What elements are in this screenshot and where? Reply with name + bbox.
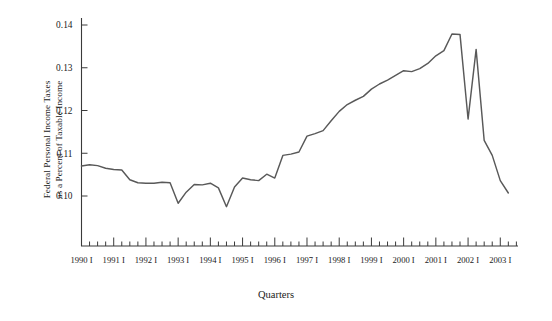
x-tick-label: 1995 I — [231, 255, 253, 265]
x-axis-label: Quarters — [0, 289, 552, 300]
x-tick-label: 2003 I — [489, 255, 511, 265]
line-chart-plot: 0.100.110.120.130.14 1990 I1991 I1992 I1… — [0, 0, 552, 321]
x-tick-label: 1996 I — [264, 255, 286, 265]
y-axis-label-line2: as a Percent of Taxable Income — [53, 35, 65, 245]
y-axis-label-line1: Federal Personal Income Taxes — [42, 35, 54, 245]
data-series-group — [82, 34, 509, 207]
x-tick-label: 1999 I — [360, 255, 382, 265]
x-tick-label: 2002 I — [457, 255, 479, 265]
x-tick-label: 1993 I — [167, 255, 189, 265]
axes-group — [82, 18, 519, 246]
x-tick-label: 1992 I — [135, 255, 157, 265]
y-axis-label: Federal Personal Income Taxes as a Perce… — [42, 35, 65, 245]
x-tick-label: 2001 I — [425, 255, 447, 265]
x-tick-label: 1991 I — [103, 255, 125, 265]
x-tick-label: 1990 I — [70, 255, 92, 265]
chart-container: 0.100.110.120.130.14 1990 I1991 I1992 I1… — [0, 0, 552, 321]
x-tick-label: 1994 I — [199, 255, 221, 265]
x-tick-label: 1997 I — [296, 255, 318, 265]
x-tick-label: 1998 I — [328, 255, 350, 265]
x-tick-label: 2000 I — [393, 255, 415, 265]
x-axis-ticks: 1990 I1991 I1992 I1993 I1994 I1995 I1996… — [70, 238, 516, 266]
axis-lines — [82, 18, 519, 246]
data-line-series — [82, 34, 509, 207]
y-tick-label: 0.14 — [56, 20, 73, 30]
